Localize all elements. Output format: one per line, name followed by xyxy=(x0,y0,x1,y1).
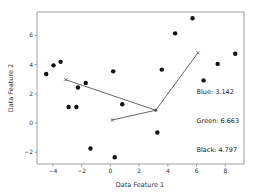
data-point xyxy=(120,102,124,106)
line-to-black-centroid xyxy=(66,80,156,111)
distance-annotation: Green: 6.663 xyxy=(197,117,240,125)
x-tick-label: 2 xyxy=(137,167,141,174)
centroid-lines xyxy=(66,53,198,120)
data-point xyxy=(173,31,177,35)
data-point xyxy=(155,130,159,134)
green-centroid-marker xyxy=(196,51,199,54)
center-point xyxy=(154,109,157,112)
y-tick-label: 2 xyxy=(29,90,33,97)
data-point xyxy=(233,52,237,56)
x-axis-ticks: −4−202468 xyxy=(48,164,227,174)
scatter-chart: −4−202468 −20246 Data Feature 1 Data Fea… xyxy=(0,0,256,193)
data-point xyxy=(111,69,115,73)
x-tick-label: −2 xyxy=(77,167,86,174)
data-point xyxy=(88,146,92,150)
y-tick-label: 4 xyxy=(29,61,33,68)
data-point xyxy=(44,72,48,76)
data-point xyxy=(58,60,62,64)
x-tick-label: 0 xyxy=(108,167,112,174)
data-point xyxy=(113,155,117,159)
y-tick-label: 6 xyxy=(29,31,33,38)
line-to-blue-centroid xyxy=(112,110,156,120)
x-tick-label: 6 xyxy=(195,167,199,174)
data-point xyxy=(190,16,194,20)
distance-annotation: Blue: 3.142 xyxy=(197,88,234,96)
data-point xyxy=(76,85,80,89)
data-point xyxy=(74,105,78,109)
distance-annotations: Blue: 3.142Green: 6.663Black: 4.797 xyxy=(197,88,240,154)
data-point xyxy=(201,78,205,82)
line-to-green-centroid xyxy=(156,53,198,110)
data-point xyxy=(215,62,219,66)
distance-annotation: Black: 4.797 xyxy=(197,146,237,154)
x-axis-label: Data Feature 1 xyxy=(116,181,164,189)
x-tick-label: −4 xyxy=(48,167,57,174)
data-point xyxy=(51,63,55,67)
x-tick-label: 8 xyxy=(223,167,227,174)
y-tick-label: 0 xyxy=(29,119,33,126)
x-tick-label: 4 xyxy=(166,167,170,174)
data-point xyxy=(66,105,70,109)
y-axis-ticks: −20246 xyxy=(24,31,37,155)
y-axis-label: Data Feature 2 xyxy=(7,64,15,112)
data-point xyxy=(84,81,88,85)
data-point xyxy=(160,67,164,71)
y-tick-label: −2 xyxy=(24,148,33,155)
